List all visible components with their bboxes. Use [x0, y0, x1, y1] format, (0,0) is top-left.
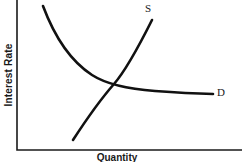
- y-axis-label: Interest Rate: [0, 0, 17, 150]
- supply-curve-label: S: [145, 3, 151, 14]
- x-axis-label: Quantity: [17, 153, 217, 162]
- demand-curve: [43, 6, 213, 94]
- chart-figure: Interest Rate Quantity S D: [0, 0, 242, 162]
- chart-plot-area: [0, 0, 242, 162]
- supply-curve: [73, 20, 152, 140]
- y-axis-label-text: Interest Rate: [4, 43, 14, 106]
- x-axis-label-text: Quantity: [97, 153, 138, 162]
- demand-curve-label: D: [217, 87, 225, 98]
